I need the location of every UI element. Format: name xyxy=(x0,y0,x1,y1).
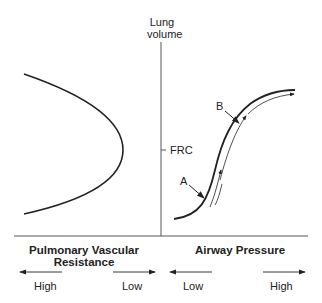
inflation-arrow-mid xyxy=(215,184,222,205)
pvr-low-label: Low xyxy=(122,280,142,292)
pvr-title: Pulmonary Vascular Resistance xyxy=(22,244,146,268)
pvr-curve xyxy=(24,74,123,214)
airway-pressure-title: Airway Pressure xyxy=(190,244,290,256)
inflation-arrow-top xyxy=(248,94,294,114)
pressure-high-label: High xyxy=(270,280,293,292)
pressure-low-label: Low xyxy=(183,280,203,292)
frc-label: FRC xyxy=(170,144,193,156)
lung-volume-label: Lung volume xyxy=(147,16,177,40)
point-a-label: A xyxy=(180,175,187,187)
point-b-label: B xyxy=(216,100,223,112)
lung-volume-label-line1: Lung xyxy=(147,16,177,28)
point-a-pointer xyxy=(189,185,204,198)
pvr-title-line1: Pulmonary Vascular xyxy=(22,244,146,256)
inflation-arrow-lower xyxy=(210,170,221,207)
pvr-high-label: High xyxy=(34,280,57,292)
pvr-title-line2: Resistance xyxy=(22,256,146,268)
lung-volume-label-line2: volume xyxy=(147,28,177,40)
inflation-arrow-upper xyxy=(220,116,246,180)
